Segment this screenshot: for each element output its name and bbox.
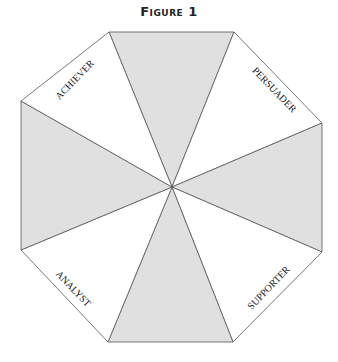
octagon-diagram: ACHIEVER PERSUADER ANALYST SUPPORTER — [0, 0, 338, 362]
